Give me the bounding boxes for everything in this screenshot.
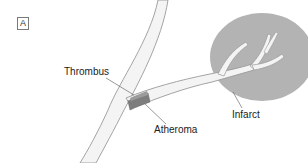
artery-infarct-illustration bbox=[0, 0, 308, 163]
diagram-canvas: A Thrombus Atheroma Infarct bbox=[0, 0, 308, 163]
main-vessel bbox=[80, 0, 168, 163]
atheroma-label: Atheroma bbox=[154, 124, 197, 136]
thrombus-label: Thrombus bbox=[64, 66, 109, 78]
infarct-label: Infarct bbox=[232, 109, 260, 121]
atheroma-leader-line bbox=[145, 104, 166, 124]
panel-label: A bbox=[17, 17, 29, 30]
